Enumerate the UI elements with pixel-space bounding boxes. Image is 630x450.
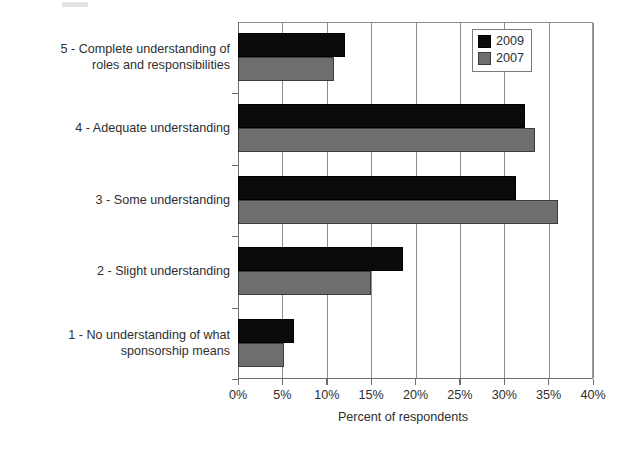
scan-artifact [62,2,88,7]
x-axis-tick [282,379,283,385]
legend-item-2009[interactable]: 2009 [478,33,524,50]
y-axis-tick [232,165,238,166]
legend-label-2009: 2009 [496,35,524,48]
x-axis-tick-label: 30% [492,388,517,402]
x-axis-tick-label: 40% [580,388,605,402]
legend-swatch-icon-2007 [478,52,491,65]
x-axis-title-text: Percent of respondents [338,410,468,424]
category-label: 4 - Adequate understanding [14,120,230,137]
y-axis-tick [232,379,238,380]
y-axis-tick [232,93,238,94]
bar-2009 [238,104,525,128]
legend: 2009 2007 [472,29,532,72]
x-axis-tick-label: 10% [314,388,339,402]
x-axis-tick-label: 20% [403,388,428,402]
bar-2007 [238,343,284,367]
x-axis-tick [593,379,594,385]
legend-swatch-icon-2009 [478,35,491,48]
category-label: 1 - No understanding of what sponsorship… [14,327,230,360]
bar-chart: 2009 2007 Percent of respondents 0%5%10%… [0,0,630,450]
x-axis-tick [371,379,372,385]
bar-2009 [238,319,294,343]
category-label: 5 - Complete understanding of roles and … [14,41,230,74]
x-axis-title: Percent of respondents [0,410,630,424]
x-axis-tick-label: 5% [273,388,291,402]
gridline [593,23,594,378]
x-axis-tick [548,379,549,385]
category-label: 3 - Some understanding [14,192,230,209]
y-axis-tick [232,308,238,309]
bar-2007 [238,128,535,152]
x-axis-tick [459,379,460,385]
legend-item-2007[interactable]: 2007 [478,50,524,67]
x-axis-tick [415,379,416,385]
bar-2009 [238,176,516,200]
x-axis-tick [326,379,327,385]
legend-label-2007: 2007 [496,52,524,65]
bar-2007 [238,200,558,224]
x-axis-tick-label: 15% [359,388,384,402]
bar-2009 [238,33,345,57]
bar-2007 [238,57,334,81]
x-axis-tick-label: 0% [229,388,247,402]
bar-2009 [238,247,403,271]
x-axis-tick-label: 25% [447,388,472,402]
category-label: 2 - Slight understanding [14,263,230,280]
x-axis-tick-label: 35% [536,388,561,402]
x-axis-tick [504,379,505,385]
bar-2007 [238,271,371,295]
y-axis-tick [232,236,238,237]
